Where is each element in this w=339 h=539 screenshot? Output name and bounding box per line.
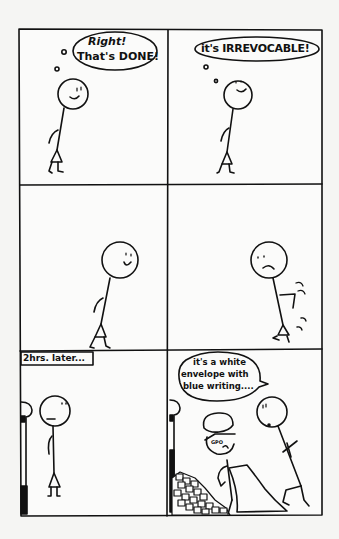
thought-text-1-line1: Right!: [88, 36, 126, 47]
thought-text-1-line2: That's DONE!: [77, 51, 159, 62]
panel-divider-row1: [20, 184, 322, 185]
caption-time-skip: 2hrs. later...: [23, 354, 85, 363]
comic-frame: [19, 29, 322, 516]
comic-strip: [0, 0, 339, 539]
panel-divider-vertical: [167, 30, 168, 516]
cap-label: GPO: [211, 440, 223, 445]
speech-text-line3: blue writing....: [183, 382, 254, 391]
thought-text-2: it's IRREVOCABLE!: [201, 43, 309, 54]
speech-text-line2: envelope with: [181, 370, 249, 379]
speech-text-line1: it's a white: [193, 358, 246, 367]
